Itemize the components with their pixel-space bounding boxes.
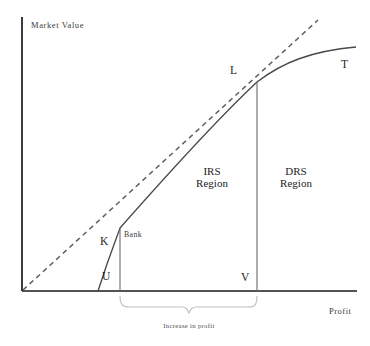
y-axis-label: Market Value xyxy=(31,21,84,30)
point-label-t: T xyxy=(341,58,348,70)
point-label-v: V xyxy=(241,271,249,283)
dashed-tangent-line xyxy=(23,20,318,290)
irs-region-label: IRS Region xyxy=(180,166,244,190)
point-label-k: K xyxy=(100,235,108,247)
bank-label: Bank xyxy=(124,231,142,239)
point-label-u: U xyxy=(102,270,110,282)
x-axis-label: Profit xyxy=(329,307,351,316)
point-label-l: L xyxy=(230,64,237,76)
irs-region-line2: Region xyxy=(180,178,244,190)
drs-region-label: DRS Region xyxy=(263,166,329,190)
increase-in-profit-bracket xyxy=(120,296,257,313)
bracket-caption: Increase in profit xyxy=(128,322,250,329)
economics-diagram: Market Value Profit L T K U V Bank IRS R… xyxy=(0,0,370,346)
drs-region-line2: Region xyxy=(263,178,329,190)
